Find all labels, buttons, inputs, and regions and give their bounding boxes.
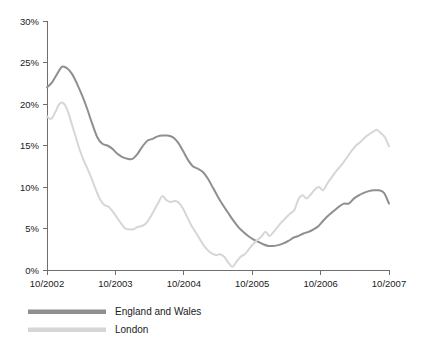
y-axis-tick-label: 0% xyxy=(25,265,39,276)
legend-swatch xyxy=(28,328,106,333)
x-axis: 10/200210/200310/200410/200510/200610/20… xyxy=(30,270,406,289)
y-axis: 0%5%10%15%20%25%30% xyxy=(20,16,47,276)
x-axis-tick-label: 10/2002 xyxy=(30,278,64,289)
x-axis-tick-label: 10/2006 xyxy=(303,278,337,289)
series-line xyxy=(47,103,389,267)
y-axis-tick-label: 15% xyxy=(20,140,40,151)
y-axis-tick-label: 10% xyxy=(20,182,40,193)
legend-label: England and Wales xyxy=(115,306,201,317)
y-axis-tick-label: 30% xyxy=(20,16,40,27)
series-line xyxy=(47,66,389,246)
y-axis-tick-label: 25% xyxy=(20,57,40,68)
y-axis-tick-label: 20% xyxy=(20,99,40,110)
legend-swatch xyxy=(28,310,106,315)
x-axis-tick-label: 10/2007 xyxy=(372,278,406,289)
legend-label: London xyxy=(115,324,148,335)
series-lines xyxy=(47,66,389,266)
x-axis-tick-label: 10/2003 xyxy=(98,278,132,289)
x-axis-tick-label: 10/2004 xyxy=(167,278,201,289)
line-chart: 0%5%10%15%20%25%30% 10/200210/200310/200… xyxy=(0,0,423,347)
chart-svg: 0%5%10%15%20%25%30% 10/200210/200310/200… xyxy=(0,0,423,347)
chart-legend: England and WalesLondon xyxy=(28,306,201,335)
x-axis-tick-label: 10/2005 xyxy=(235,278,269,289)
y-axis-tick-label: 5% xyxy=(25,223,39,234)
